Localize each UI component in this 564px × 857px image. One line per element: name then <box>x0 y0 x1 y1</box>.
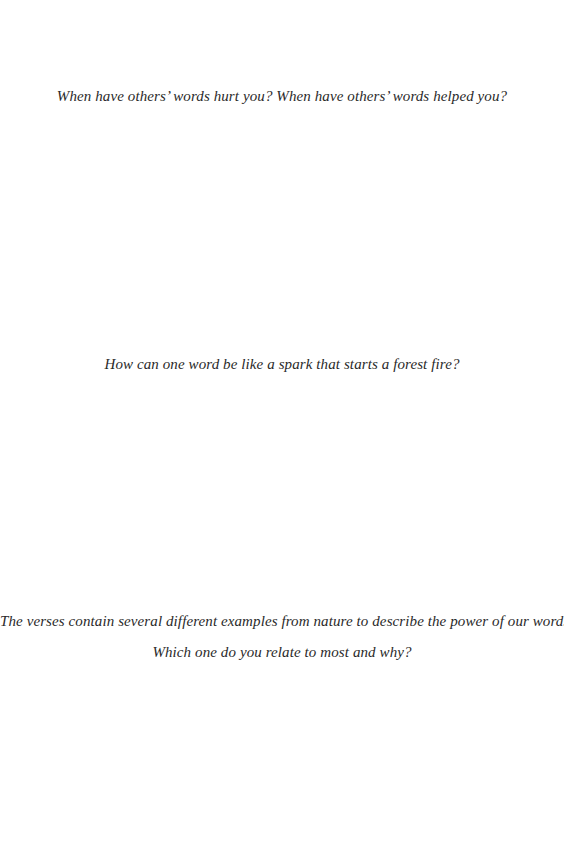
question-spark-forest-fire: How can one word be like a spark that st… <box>0 354 564 374</box>
question-nature-examples: The verses contain several different exa… <box>0 611 564 631</box>
question-words-hurt-helped: When have others’ words hurt you? When h… <box>0 86 564 106</box>
question-relate-most: Which one do you relate to most and why? <box>0 642 564 662</box>
